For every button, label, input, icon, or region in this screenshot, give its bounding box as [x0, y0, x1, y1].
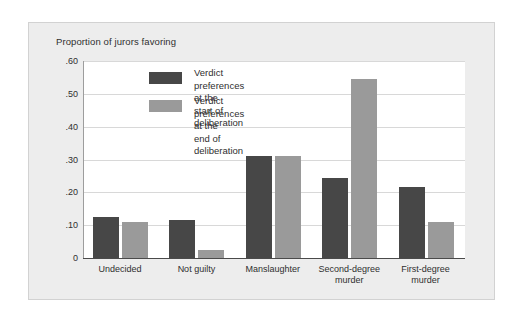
bar-group: Second-degree murder	[314, 61, 390, 258]
bar	[169, 220, 195, 258]
y-axis-tick-label: 0	[73, 253, 78, 263]
y-axis-line	[83, 61, 84, 259]
y-axis-tick-label: .30	[65, 155, 78, 165]
bar	[122, 222, 148, 258]
y-axis-tick-label: .40	[65, 122, 78, 132]
bar-group: Undecided	[85, 61, 161, 258]
x-axis-category-label: First-degree murder	[376, 264, 476, 286]
y-axis-tick-label: .10	[65, 220, 78, 230]
bar-group: Manslaughter	[238, 61, 314, 258]
bar	[351, 79, 377, 258]
y-axis-tick-label: .60	[65, 56, 78, 66]
legend-swatch-end-icon	[149, 100, 182, 112]
figure-panel: Proportion of jurors favoring .60.50.40.…	[28, 22, 495, 300]
y-axis-tick-label: .20	[65, 187, 78, 197]
y-axis-tick-label: .50	[65, 89, 78, 99]
bar	[275, 156, 301, 258]
bar	[246, 156, 272, 258]
bar	[399, 187, 425, 258]
bar	[198, 250, 224, 258]
bar-group: First-degree murder	[391, 61, 467, 258]
x-axis-baseline	[83, 258, 465, 259]
bar	[428, 222, 454, 258]
bar	[322, 178, 348, 258]
chart-title: Proportion of jurors favoring	[56, 36, 176, 47]
legend-swatch-start-icon	[149, 72, 182, 84]
bar	[93, 217, 119, 258]
legend-label-end: Verdict preferences at the end of delibe…	[194, 95, 244, 158]
plot-area: .60.50.40.30.20.100 UndecidedNot guiltyM…	[83, 61, 465, 259]
